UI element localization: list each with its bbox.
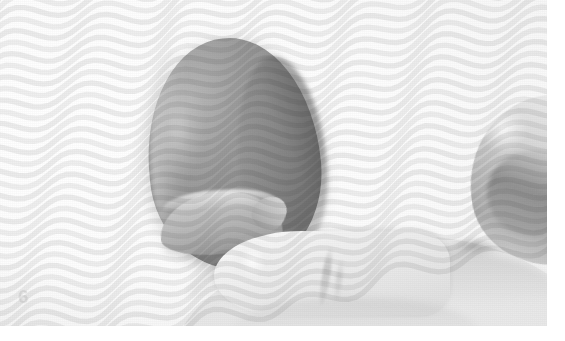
photograph-plate: 6	[0, 0, 547, 326]
figure-stage: 6	[0, 0, 565, 341]
page-margin-bottom	[0, 326, 565, 341]
vignette-overlay	[0, 0, 547, 326]
page-margin-right	[547, 0, 565, 341]
figure-number-label: 6	[18, 286, 29, 308]
